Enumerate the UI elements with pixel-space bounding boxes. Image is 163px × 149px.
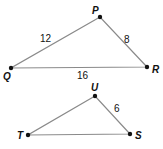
vertex-s-dot	[128, 132, 132, 136]
side-qr-length: 16	[77, 70, 89, 81]
vertex-r-label: R	[152, 64, 160, 75]
vertex-u-label: U	[91, 82, 99, 93]
side-pq-length: 12	[40, 33, 52, 44]
vertex-q-dot	[9, 66, 13, 70]
vertex-q-label: Q	[3, 71, 11, 82]
vertex-r-dot	[145, 65, 149, 69]
vertex-s-label: S	[135, 130, 142, 141]
triangle-uts-outline	[28, 96, 130, 135]
triangles-diagram: P Q R 12 8 16 U T S 6	[0, 0, 163, 149]
vertex-t-label: T	[17, 130, 24, 141]
triangle-uts: U T S 6	[17, 82, 142, 141]
triangle-pqr: P Q R 12 8 16	[3, 5, 160, 82]
vertex-u-dot	[93, 94, 97, 98]
side-pr-length: 8	[124, 34, 130, 45]
vertex-p-label: P	[92, 5, 99, 16]
vertex-t-dot	[26, 133, 30, 137]
side-us-length: 6	[114, 103, 120, 114]
